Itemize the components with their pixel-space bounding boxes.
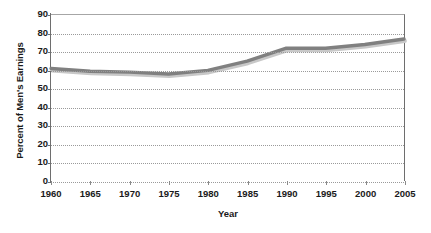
- gridline-horizontal: [51, 126, 404, 127]
- x-axis-tick-label: 1970: [110, 188, 150, 200]
- line-chart-figure: Percent of Men's Earnings 01020304050607…: [0, 0, 431, 233]
- gridline-horizontal: [51, 34, 404, 35]
- y-axis-tick-label: 30: [26, 120, 48, 130]
- x-axis-tick-label: 1965: [70, 188, 110, 200]
- x-axis-tick-mark: [366, 181, 367, 185]
- y-axis-tick-mark: [48, 163, 51, 164]
- y-axis-tick-mark: [48, 15, 51, 16]
- x-axis-tick-mark: [130, 181, 131, 185]
- y-axis-tick-mark: [48, 34, 51, 35]
- gridline-horizontal: [51, 182, 404, 183]
- gridline-horizontal: [51, 89, 404, 90]
- y-axis-tick-label: 20: [26, 139, 48, 149]
- x-axis-tick-label: 2005: [385, 188, 425, 200]
- y-axis-tick-mark: [48, 145, 51, 146]
- y-axis-tick-label: 50: [26, 83, 48, 93]
- x-axis-tick-mark: [208, 181, 209, 185]
- x-axis-tick-label: 1990: [267, 188, 307, 200]
- x-axis-tick-labels: 1960196519701975198019851990199520002005: [51, 188, 405, 202]
- y-axis-tick-mark: [48, 89, 51, 90]
- x-axis-tick-label: 1975: [149, 188, 189, 200]
- y-axis-tick-mark: [48, 126, 51, 127]
- x-axis-tick-mark: [248, 181, 249, 185]
- y-axis-tick-label: 0: [26, 176, 48, 186]
- y-axis-tick-labels: 0102030405060708090: [26, 9, 48, 181]
- x-axis-tick-mark: [287, 181, 288, 185]
- x-axis-title: Year: [51, 208, 405, 219]
- x-axis-tick-label: 2000: [346, 188, 386, 200]
- y-axis-tick-label: 70: [26, 46, 48, 56]
- y-axis-tick-label: 10: [26, 157, 48, 167]
- y-axis-tick-mark: [48, 108, 51, 109]
- gridline-horizontal: [51, 108, 404, 109]
- x-axis-tick-label: 1980: [188, 188, 228, 200]
- y-axis-tick-label: 80: [26, 28, 48, 38]
- gridline-horizontal: [51, 145, 404, 146]
- x-axis-tick-mark: [169, 181, 170, 185]
- x-axis-tick-mark: [326, 181, 327, 185]
- x-axis-tick-mark: [51, 181, 52, 185]
- x-axis-tick-label: 1985: [228, 188, 268, 200]
- x-axis-tick-label: 1995: [306, 188, 346, 200]
- y-axis-tick-label: 60: [26, 65, 48, 75]
- plot-area: [51, 14, 405, 181]
- gridline-horizontal: [51, 163, 404, 164]
- gridline-horizontal: [51, 52, 404, 53]
- x-axis-tick-mark: [405, 181, 406, 185]
- y-axis-tick-label: 40: [26, 102, 48, 112]
- data-series-line: [51, 15, 404, 181]
- gridline-horizontal: [51, 71, 404, 72]
- x-axis-tick-mark: [90, 181, 91, 185]
- y-axis-tick-label: 90: [26, 9, 48, 19]
- x-axis-tick-label: 1960: [31, 188, 71, 200]
- y-axis-tick-mark: [48, 52, 51, 53]
- y-axis-tick-mark: [48, 71, 51, 72]
